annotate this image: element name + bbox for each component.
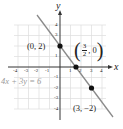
coordinate-graph — [0, 0, 123, 129]
x-tick: -4 — [13, 68, 17, 73]
point-3-neg2 — [89, 85, 94, 90]
paren-open: ( — [74, 40, 81, 60]
x-axis-label: x — [114, 61, 118, 72]
y-tick: 3 — [55, 32, 58, 37]
x-tick: -1 — [45, 68, 49, 73]
y-tick: -2 — [54, 85, 58, 90]
x-tick: 2 — [79, 68, 82, 73]
y-axis-label: y — [56, 0, 60, 11]
y-tick: -1 — [54, 74, 58, 79]
x-tick: 4 — [100, 68, 103, 73]
x-tick: 3 — [90, 68, 93, 73]
point-label-3-neg2: (3, −2) — [73, 103, 96, 113]
point-label-0-2: (0, 2) — [27, 41, 45, 51]
fraction: 3 2 — [82, 43, 88, 58]
paren-close: ) — [97, 40, 104, 60]
y-tick: 1 — [55, 53, 58, 58]
x-tick: -3 — [24, 68, 28, 73]
x-tick: -2 — [34, 68, 38, 73]
x-tick: 1 — [69, 68, 72, 73]
fraction-denominator: 2 — [83, 51, 87, 58]
point-label-rest: , 0 — [88, 45, 97, 55]
y-tick: 4 — [55, 22, 58, 27]
point-label-1.5-0: ( 3 2 , 0 ) — [74, 40, 103, 60]
y-tick: -3 — [54, 95, 58, 100]
axes — [8, 10, 113, 120]
equation-label: 4x + 3y = 6 — [1, 76, 41, 86]
y-tick: -4 — [54, 106, 58, 111]
point-1.5-0 — [73, 64, 78, 69]
point-0-2 — [57, 43, 62, 48]
